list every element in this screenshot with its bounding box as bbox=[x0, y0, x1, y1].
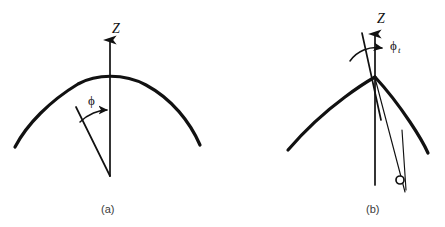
open-circle-marker bbox=[396, 176, 404, 184]
cusp-right-branch-curve bbox=[375, 77, 428, 153]
cusp-left-branch-curve bbox=[288, 77, 375, 150]
angle-arc bbox=[80, 110, 107, 122]
panel-a: Z ϕ (a) bbox=[0, 0, 222, 227]
convex-arc-curve bbox=[15, 76, 200, 147]
panel-b-caption: (b) bbox=[366, 203, 379, 215]
figure-root: Z ϕ (a) Z bbox=[0, 0, 445, 227]
panel-a-caption: (a) bbox=[101, 203, 114, 215]
angle-label-phi: ϕ bbox=[88, 93, 95, 108]
radial-line bbox=[76, 107, 110, 176]
panel-b: Z ϕ t (b) bbox=[222, 0, 445, 227]
z-axis-label: Z bbox=[112, 21, 120, 36]
angle-label-subscript: t bbox=[398, 45, 401, 55]
z-axis-label: Z bbox=[377, 11, 385, 26]
angle-label-phi-t: ϕ bbox=[390, 38, 397, 53]
tilted-line bbox=[362, 33, 381, 120]
